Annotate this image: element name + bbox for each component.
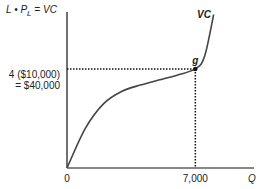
vc-curve xyxy=(67,14,214,168)
x-axis-label: Q xyxy=(248,173,256,184)
y-annotation-line2: = $40,000 xyxy=(15,80,60,91)
x-tick-label-7000: 7,000 xyxy=(183,173,208,184)
vc-curve-label: VC xyxy=(197,9,212,20)
x-tick-label-0: 0 xyxy=(64,173,70,184)
y-axis-label: L • PL = VC xyxy=(6,4,58,18)
y-annotation-line1: 4 ($10,000) xyxy=(9,69,60,80)
vc-chart: L • PL = VC 4 ($10,000) = $40,000 VC g 0… xyxy=(0,0,263,189)
point-g-label: g xyxy=(191,55,198,66)
point-g xyxy=(193,67,197,71)
